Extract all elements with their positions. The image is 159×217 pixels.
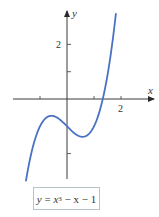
- x-axis-label: x: [147, 84, 153, 96]
- equation-label: y = x 3 − x − 1: [33, 187, 100, 210]
- y-tick-label-2: 2: [56, 39, 61, 50]
- equation-equals: =: [42, 193, 54, 205]
- equation-rest: − x − 1: [62, 193, 96, 205]
- cubic-curve: [26, 14, 116, 181]
- x-tick-label-2: 2: [118, 103, 123, 114]
- function-plot: 2 2 x y: [0, 0, 159, 217]
- y-axis-label: y: [71, 7, 77, 19]
